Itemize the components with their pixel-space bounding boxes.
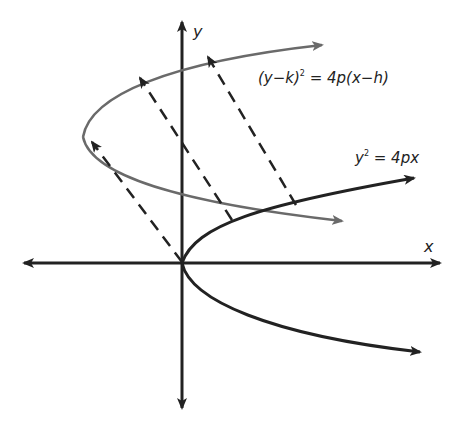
translation-arrow-2 xyxy=(140,78,232,220)
original-equation-label: y2 = 4px xyxy=(354,149,419,167)
original-parabola-lower xyxy=(182,263,420,352)
parabola-translation-diagram: y x (y−k)2 = 4p(x−h) y2 = 4px xyxy=(0,0,456,429)
x-axis-label: x xyxy=(423,237,434,256)
y-axis-label: y xyxy=(192,22,203,41)
translated-equation-label: (y−k)2 = 4p(x−h) xyxy=(258,69,389,87)
translation-arrows xyxy=(92,57,296,262)
translated-parabola-lower xyxy=(83,137,342,221)
translated-parabola-upper xyxy=(83,45,322,137)
original-parabola-upper xyxy=(182,178,414,263)
translation-arrow-1 xyxy=(92,142,182,262)
